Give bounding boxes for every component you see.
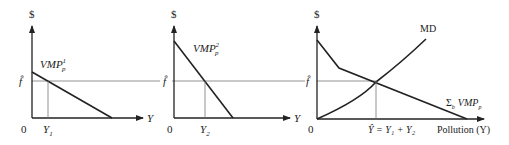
origin-label-panel-3: 0 [308,123,314,135]
y-axis-label-panel-2: $ [171,8,177,20]
y-axis-label-panel-3: $ [314,8,320,20]
aggregate-vmp-label: ΣbVMPp [446,97,481,110]
equilibrium-label: Ŷ = Y₁ + Y₂ [368,124,416,135]
pollution-fee-diagram: $ Y 0 f̂ VMP1p Y1 $ Y 0 f̂ VMP2p Y2 $ Po [0,0,509,145]
panel-1: $ Y 0 f̂ VMP1p Y1 [19,8,155,138]
vmp2-label: VMP2p [193,41,220,57]
fhat-label-panel-1: f̂ [19,75,24,87]
fhat-label-panel-2: f̂ [163,75,168,87]
panel-3: $ Pollution (Y) 0 f̂ MD ΣbVMPp Ŷ = Y₁ + … [306,8,490,136]
x-axis-label-panel-1: Y [147,112,155,124]
md-curve [317,39,426,119]
aggregate-vmp-curve [317,40,467,119]
fhat-label-panel-3: f̂ [306,75,311,87]
panel-2: $ Y 0 f̂ VMP2p Y2 [163,8,302,138]
x-axis-label-panel-3: Pollution (Y) [437,124,490,136]
y1-label: Y1 [43,123,53,138]
x-axis-label-panel-2: Y [294,112,302,124]
md-label: MD [420,23,436,34]
origin-label-panel-2: 0 [167,123,173,135]
origin-label-panel-1: 0 [21,123,27,135]
vmp1-label: VMP1p [40,57,66,73]
vmp1-curve [32,72,112,118]
y-axis-label-panel-1: $ [29,8,35,20]
y2-label: Y2 [200,123,210,138]
